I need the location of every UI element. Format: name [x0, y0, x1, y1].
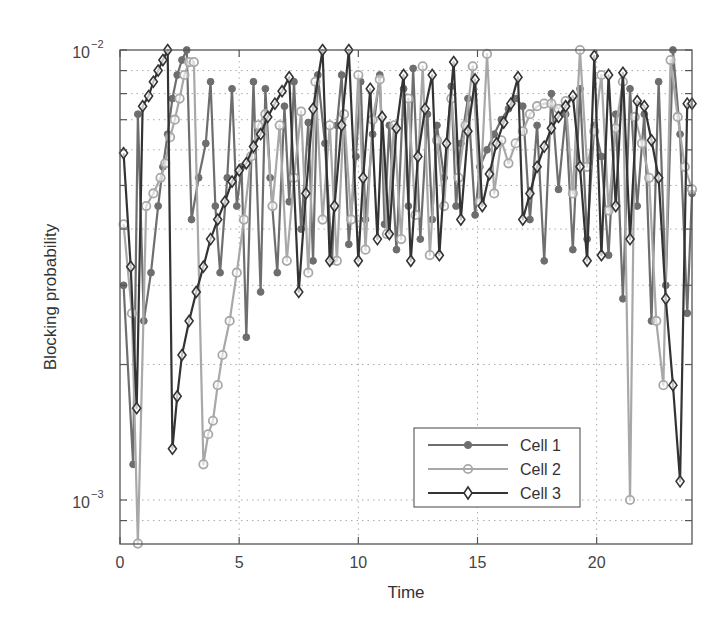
open-circle-marker-icon: [214, 381, 222, 389]
filled-circle-marker-icon: [155, 203, 162, 210]
x-tick-label: 0: [116, 554, 125, 571]
open-diamond-marker-icon: [168, 443, 176, 454]
open-circle-marker-icon: [218, 351, 226, 359]
x-tick-label: 10: [349, 554, 367, 571]
filled-circle-marker-icon: [534, 122, 541, 129]
open-diamond-marker-icon: [597, 250, 605, 261]
x-tick-label: 5: [235, 554, 244, 571]
open-circle-marker-icon: [233, 268, 241, 276]
x-tick-label: 15: [469, 554, 487, 571]
open-circle-marker-icon: [569, 189, 577, 197]
open-circle-marker-icon: [469, 62, 477, 70]
filled-circle-marker-icon: [541, 257, 548, 264]
filled-circle-marker-icon: [243, 334, 250, 341]
open-circle-marker-icon: [361, 245, 369, 253]
x-axis-label: Time: [387, 583, 424, 602]
open-circle-marker-icon: [674, 113, 682, 121]
open-diamond-marker-icon: [428, 69, 436, 80]
open-diamond-marker-icon: [173, 391, 181, 402]
filled-circle-marker-icon: [188, 216, 195, 223]
open-diamond-marker-icon: [435, 250, 443, 261]
open-circle-marker-icon: [149, 189, 157, 197]
filled-circle-marker-icon: [202, 140, 209, 147]
filled-circle-marker-icon: [262, 85, 269, 92]
filled-circle-marker-icon: [217, 269, 224, 276]
filled-circle-marker-icon: [619, 295, 626, 302]
open-circle-marker-icon: [156, 174, 164, 182]
x-tick-label: 20: [588, 554, 606, 571]
open-circle-marker-icon: [142, 202, 150, 210]
open-circle-marker-icon: [526, 110, 534, 118]
open-circle-marker-icon: [397, 235, 405, 243]
filled-circle-marker-icon: [627, 85, 634, 92]
filled-circle-marker-icon: [555, 186, 562, 193]
open-diamond-marker-icon: [373, 234, 381, 245]
open-diamond-marker-icon: [378, 111, 386, 122]
open-circle-marker-icon: [283, 257, 291, 265]
open-diamond-marker-icon: [359, 172, 367, 183]
open-diamond-marker-icon: [583, 255, 591, 266]
open-circle-marker-icon: [171, 116, 179, 124]
open-circle-marker-icon: [490, 189, 498, 197]
open-circle-marker-icon: [681, 163, 689, 171]
open-diamond-marker-icon: [366, 83, 374, 94]
filled-circle-marker-icon: [233, 203, 240, 210]
open-circle-marker-icon: [204, 430, 212, 438]
open-circle-marker-icon: [304, 268, 312, 276]
open-circle-marker-icon: [166, 133, 174, 141]
open-diamond-marker-icon: [331, 201, 339, 212]
open-diamond-marker-icon: [295, 286, 303, 297]
legend-label-cell-2: Cell 2: [520, 461, 561, 478]
open-diamond-marker-icon: [676, 476, 684, 487]
open-circle-marker-icon: [418, 62, 426, 70]
y-tick-labels: 10−310−2: [72, 38, 103, 511]
open-circle-marker-icon: [326, 121, 334, 129]
legend-label-cell-3: Cell 3: [520, 485, 561, 502]
y-tick-exponent: −2: [91, 38, 104, 50]
open-circle-marker-icon: [666, 56, 674, 64]
open-diamond-marker-icon: [457, 214, 465, 225]
open-circle-marker-icon: [638, 139, 646, 147]
open-circle-marker-icon: [190, 58, 198, 66]
open-circle-marker-icon: [297, 107, 305, 115]
open-circle-marker-icon: [626, 496, 634, 504]
blocking-probability-chart: 05101520 10−310−2 Time Blocking probabil…: [0, 0, 727, 629]
filled-circle-marker-icon: [519, 103, 526, 110]
open-diamond-marker-icon: [214, 214, 222, 225]
y-tick-label: 10: [72, 494, 90, 511]
open-circle-marker-icon: [180, 71, 188, 79]
open-circle-marker-icon: [504, 159, 512, 167]
y-tick-label: 10: [72, 44, 90, 61]
open-diamond-marker-icon: [207, 234, 215, 245]
open-circle-marker-icon: [376, 75, 384, 83]
filled-circle-marker-icon: [310, 257, 317, 264]
open-circle-marker-icon: [199, 460, 207, 468]
filled-circle-marker-icon: [257, 289, 264, 296]
filled-circle-marker-icon: [548, 90, 555, 97]
filled-circle-marker-icon: [207, 78, 214, 85]
filled-circle-marker-icon: [229, 85, 236, 92]
filled-circle-marker-icon: [274, 269, 281, 276]
open-circle-marker-icon: [604, 206, 612, 214]
open-diamond-marker-icon: [221, 196, 229, 207]
open-diamond-marker-icon: [619, 67, 627, 78]
open-circle-marker-icon: [209, 417, 217, 425]
legend-label-cell-1: Cell 1: [520, 437, 561, 454]
filled-circle-marker-icon: [484, 146, 491, 153]
open-circle-marker-icon: [631, 113, 639, 121]
open-circle-marker-icon: [268, 202, 276, 210]
series-cell-2: [119, 46, 696, 548]
open-diamond-marker-icon: [354, 255, 362, 266]
open-circle-marker-icon: [354, 71, 362, 79]
filled-circle-marker-icon: [345, 241, 352, 248]
filled-circle-marker-icon: [417, 236, 424, 243]
filled-circle-marker-icon: [212, 203, 219, 210]
x-tick-labels: 05101520: [116, 554, 606, 571]
y-axis-label: Blocking probability: [41, 223, 60, 370]
filled-circle-marker-icon: [655, 78, 662, 85]
open-diamond-marker-icon: [400, 69, 408, 80]
filled-circle-marker-icon: [684, 310, 691, 317]
open-diamond-marker-icon: [178, 350, 186, 361]
open-circle-marker-icon: [659, 381, 667, 389]
open-circle-marker-icon: [652, 317, 660, 325]
